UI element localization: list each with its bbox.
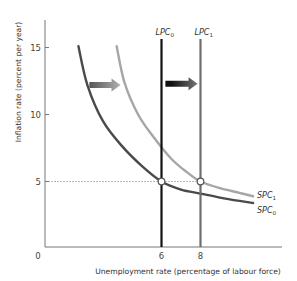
y-tick-label: 5 xyxy=(36,177,41,187)
y-axis-title: Inflation rate (percent per year) xyxy=(14,22,23,143)
y-tick-label: 15 xyxy=(30,43,41,53)
label-lpc0: LPC0 xyxy=(156,28,175,38)
label-spc1: SPC1 xyxy=(257,191,276,201)
curve-spc1 xyxy=(117,46,254,196)
curves-layer xyxy=(78,46,253,203)
lpc-layer xyxy=(162,39,201,247)
curve-spc0 xyxy=(78,46,253,203)
label-spc0: SPC0 xyxy=(257,206,277,216)
x-tick-label: 6 xyxy=(159,251,164,261)
phillips-curve-chart: 5101568 0 Unemployment rate (percentage … xyxy=(0,0,297,281)
ticks-layer: 5101568 xyxy=(30,43,203,262)
equilibrium-1-marker xyxy=(197,178,204,185)
origin-label: 0 xyxy=(35,251,40,261)
spc-shift-arrow xyxy=(89,79,120,92)
x-axis-title: Unemployment rate (percentage of labour … xyxy=(95,267,281,276)
x-tick-label: 8 xyxy=(198,251,203,261)
y-tick-label: 10 xyxy=(30,110,41,120)
label-lpc1: LPC1 xyxy=(195,28,213,38)
equilibrium-0-marker xyxy=(158,178,165,185)
lpc-shift-arrow xyxy=(165,77,197,90)
arrows-layer xyxy=(89,77,197,91)
